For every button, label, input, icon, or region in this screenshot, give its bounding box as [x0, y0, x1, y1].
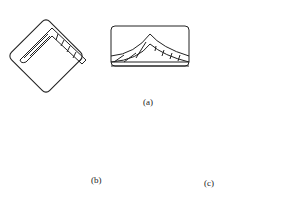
- label-a: (a): [143, 97, 153, 107]
- panel-a1: [8, 18, 86, 94]
- label-c: (c): [204, 178, 214, 188]
- label-b: (b): [91, 175, 102, 185]
- panel-a2: [111, 26, 189, 66]
